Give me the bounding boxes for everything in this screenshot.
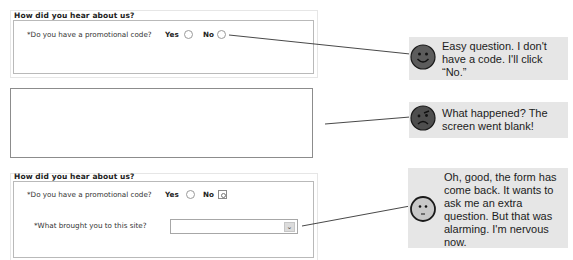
form-section-box <box>13 20 314 74</box>
callout-text: Easy question. I don't have a code. I'll… <box>442 40 566 79</box>
happy-face-icon <box>410 44 436 70</box>
callout-text: What happened? The screen went blank! <box>442 107 566 133</box>
site-referral-question: *What brought you to this site? <box>34 221 146 230</box>
callout-text: Oh, good, the form has come back. It wan… <box>444 171 566 249</box>
nervous-face-icon <box>410 196 436 222</box>
chevron-down-icon[interactable]: ⌄ <box>284 222 295 232</box>
site-referral-select[interactable]: ⌄ <box>170 219 298 234</box>
no-option-label: No <box>203 30 214 39</box>
section-title: How did you hear about us? <box>14 11 135 20</box>
angry-face-icon <box>410 105 436 131</box>
promo-code-question: *Do you have a promotional code? <box>27 30 152 39</box>
yes-option-label: Yes <box>165 30 179 39</box>
no-option-label: No <box>203 190 214 199</box>
promo-code-question: *Do you have a promotional code? <box>27 190 152 199</box>
no-radio-selected[interactable] <box>218 190 227 199</box>
yes-option-label: Yes <box>165 190 179 199</box>
yes-radio[interactable] <box>186 190 195 199</box>
no-radio[interactable] <box>217 30 226 39</box>
section-title: How did you hear about us? <box>14 172 135 181</box>
blank-screen-panel <box>10 88 313 158</box>
yes-radio[interactable] <box>184 30 193 39</box>
